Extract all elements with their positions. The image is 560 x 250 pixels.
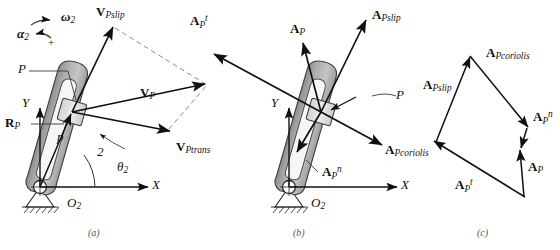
label-ap-coriolis-b: APcoriolis (385, 143, 429, 159)
label-ap-c: AP (528, 160, 543, 176)
label-plus-sign-a: + (48, 37, 54, 48)
label-origin-o2-b: O2 (311, 196, 325, 212)
caption-panel-a: (a) (88, 228, 100, 238)
vector-vp-trans-a (72, 112, 170, 131)
panel-a-graphics (22, 20, 207, 213)
leader-p-b (372, 94, 396, 96)
label-vp-trans-a: VPtrans (176, 140, 210, 156)
label-ap-coriolis-c: APcoriolis (486, 46, 530, 62)
label-vp-slip-a: VPslip (96, 5, 125, 21)
label-ap-normal-c: APn (533, 110, 553, 126)
label-ap-b: AP (290, 22, 305, 38)
caption-panel-b: (b) (293, 228, 305, 238)
label-point-p-b: P (396, 88, 404, 101)
figure-canvas (0, 0, 560, 250)
slotted-link-a (24, 58, 91, 197)
vector-ap-coriolis-b (321, 112, 382, 145)
polygon-vector-ap (520, 150, 524, 197)
label-alpha2-a: α2 (17, 27, 29, 43)
label-ap-normal-b: APn (322, 165, 342, 181)
label-rp-a: RP (5, 116, 20, 132)
figure-root: ω2 α2 + P Y X O2 2 θ2 p RP VPslip VP VPt… (0, 0, 560, 250)
label-theta2-a: θ2 (117, 160, 128, 176)
theta2-arc (84, 155, 95, 187)
panel-b-graphics (214, 20, 397, 213)
label-radius-p-a: p (57, 130, 64, 143)
label-vp-a: VP (140, 86, 155, 102)
label-axis-x-a: X (152, 178, 160, 191)
label-omega2-a: ω2 (61, 10, 75, 26)
label-origin-o2-a: O2 (67, 196, 81, 212)
vector-vp-a (72, 84, 205, 112)
label-link-2-a: 2 (97, 145, 104, 158)
polygon-vector-ap-coriolis (470, 56, 528, 127)
parallelogram-dashed-a (115, 28, 207, 129)
polygon-vector-ap-normal (521, 128, 527, 148)
label-ap-slip-b: APslip (372, 8, 401, 24)
label-ap-tangential-c: APt (455, 178, 473, 194)
polygon-vector-ap-tangential (434, 141, 525, 197)
polygon-vector-ap-slip (436, 57, 470, 142)
label-axis-y-b: Y (271, 96, 278, 109)
label-ap-tangential-b: APt (190, 14, 208, 30)
label-axis-x-b: X (401, 178, 409, 191)
caption-panel-c: (c) (477, 228, 488, 238)
label-ap-slip-c: APslip (423, 78, 452, 94)
label-axis-y-a: Y (22, 96, 29, 109)
label-point-p-a: P (18, 62, 26, 75)
pointer-into-p-b (331, 97, 356, 110)
omega-arrow-icon (31, 20, 50, 25)
